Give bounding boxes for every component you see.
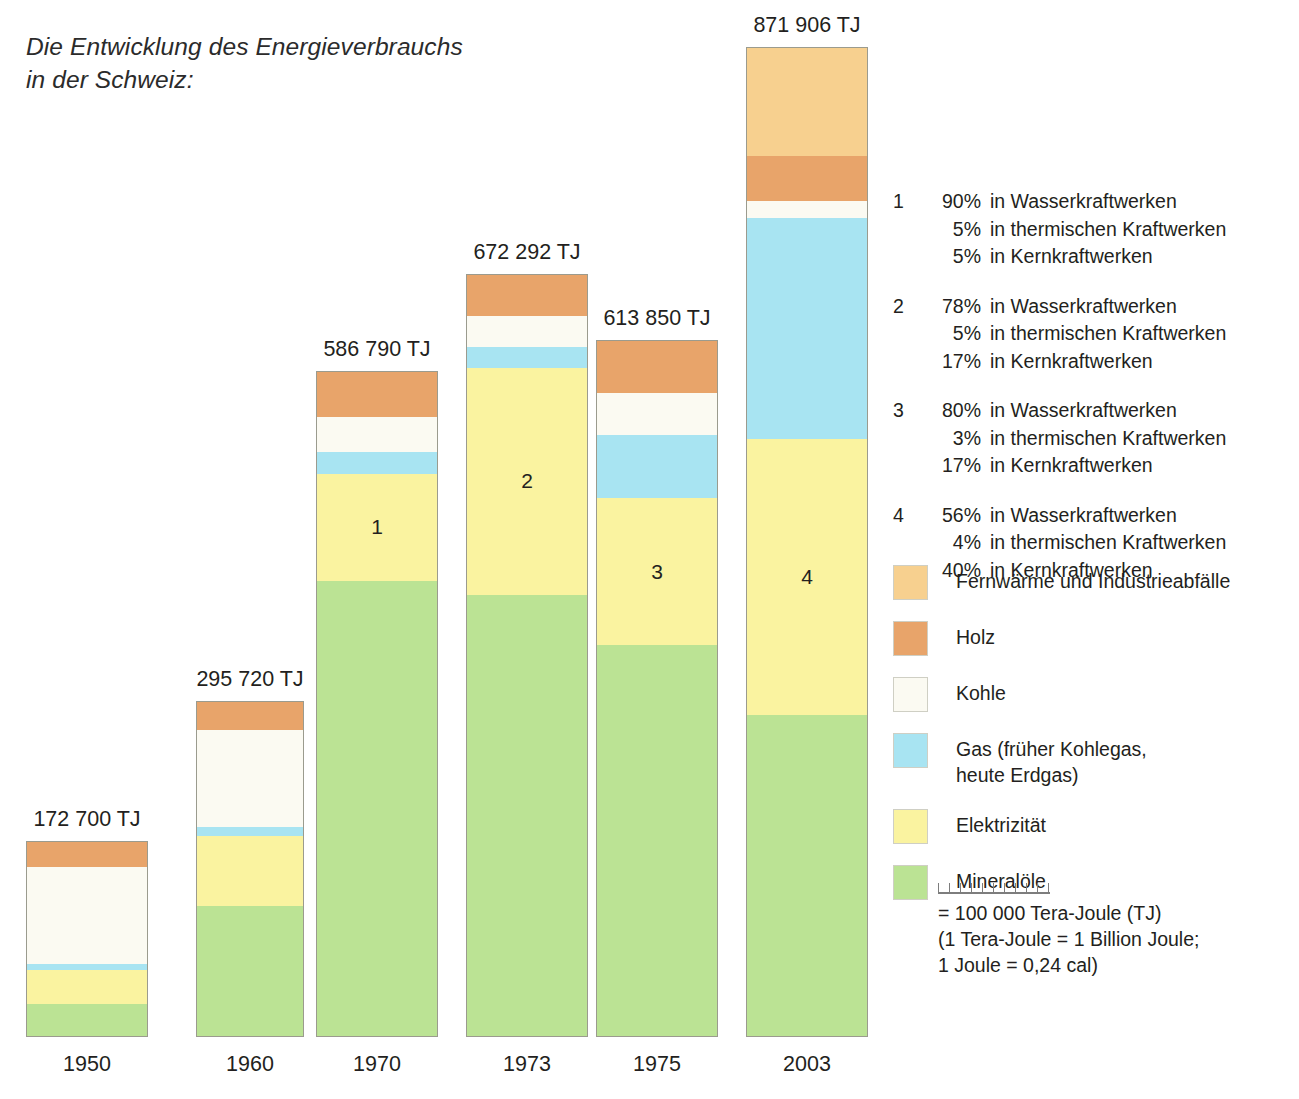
scale-reference: = 100 000 Tera-Joule (TJ) (1 Tera-Joule …: [938, 876, 1298, 978]
bar-group-1950: 172 700 TJ: [26, 0, 148, 1037]
segment-annotation-4: 4: [747, 565, 867, 589]
bar-segment-holz-1950: [27, 842, 147, 867]
footnote-percent: 5%: [935, 320, 990, 348]
legend-label-gas: Gas (früher Kohlegas,heute Erdgas): [956, 733, 1147, 788]
segment-annotation-3: 3: [597, 560, 717, 584]
footnote-text: in Wasserkraftwerken: [990, 188, 1177, 216]
footnote-line: 5%in thermischen Kraftwerken: [935, 216, 1226, 244]
footnote-line: 78%in Wasserkraftwerken: [935, 293, 1226, 321]
stacked-bar-1960[interactable]: [196, 701, 304, 1037]
footnote-line: 17%in Kernkraftwerken: [935, 348, 1226, 376]
legend-label-kohle: Kohle: [956, 677, 1006, 706]
footnote-text: in thermischen Kraftwerken: [990, 529, 1226, 557]
stacked-bar-1970[interactable]: 1: [316, 371, 438, 1037]
scale-tick: [1037, 883, 1038, 892]
legend-label-line-1: Holz: [956, 624, 995, 650]
stacked-bar-1950[interactable]: [26, 841, 148, 1037]
legend-swatch-kohle: [893, 677, 928, 712]
legend-label-line-2: heute Erdgas): [956, 762, 1147, 788]
bar-segment-gas-2003: [747, 218, 867, 439]
footnote-percent: 56%: [935, 502, 990, 530]
footnote-percent: 78%: [935, 293, 990, 321]
footnote-percent: 80%: [935, 397, 990, 425]
bar-group-1960: 295 720 TJ: [196, 0, 304, 1037]
bar-segment-holz-1960: [197, 702, 303, 730]
legend-label-line-1: Elektrizität: [956, 812, 1046, 838]
bar-segment-elektrizitaet-1970: 1: [317, 474, 437, 582]
scale-tick: [993, 883, 994, 892]
footnote-3: 380%in Wasserkraftwerken3%in thermischen…: [893, 397, 1293, 480]
bar-segment-fernwaerme-2003: [747, 48, 867, 156]
footnote-text: in Kernkraftwerken: [990, 452, 1153, 480]
footnote-line: 4%in thermischen Kraftwerken: [935, 529, 1226, 557]
scale-bar-icon: [938, 876, 1050, 894]
x-axis-label-1960: 1960: [226, 1052, 274, 1077]
bar-group-1975: 613 850 TJ3: [596, 0, 718, 1037]
bar-segment-gas-1950: [27, 964, 147, 971]
scale-tick: [1026, 883, 1027, 892]
bar-segment-kohle-1973: [467, 316, 587, 346]
legend-swatch-fernwaerme: [893, 565, 928, 600]
footnote-line: 90%in Wasserkraftwerken: [935, 188, 1226, 216]
bar-segment-gas-1960: [197, 827, 303, 836]
stacked-bar-plot: 1950172 700 TJ1960295 720 TJ1970586 790 …: [0, 0, 900, 1099]
legend-label-fernwaerme: Fernwärme und Industrieabfälle: [956, 565, 1230, 594]
legend-swatch-gas: [893, 733, 928, 768]
bar-segment-holz-1975: [597, 341, 717, 393]
footnote-line: 5%in thermischen Kraftwerken: [935, 320, 1226, 348]
footnote-lines-2: 78%in Wasserkraftwerken5%in thermischen …: [935, 293, 1226, 376]
bar-segment-kohle-1950: [27, 867, 147, 964]
bar-segment-elektrizitaet-1950: [27, 970, 147, 1004]
segment-annotation-2: 2: [467, 469, 587, 493]
legend-label-line-1: Gas (früher Kohlegas,: [956, 736, 1147, 762]
legend-swatch-holz: [893, 621, 928, 656]
scale-tick: [960, 883, 961, 892]
chart-canvas: Die Entwicklung des Energieverbrauchs in…: [0, 0, 1299, 1099]
bar-segment-mineraloele-1975: [597, 645, 717, 1036]
legend-item-holz[interactable]: Holz: [893, 621, 1293, 656]
footnote-text: in Wasserkraftwerken: [990, 397, 1177, 425]
bar-segment-kohle-1960: [197, 730, 303, 827]
footnote-text: in Wasserkraftwerken: [990, 502, 1177, 530]
bar-segment-holz-2003: [747, 156, 867, 201]
footnote-percent: 17%: [935, 452, 990, 480]
bar-total-label-1975: 613 850 TJ: [603, 306, 710, 331]
scale-tick: [938, 883, 939, 892]
footnote-line: 5%in Kernkraftwerken: [935, 243, 1226, 271]
legend-label-holz: Holz: [956, 621, 995, 650]
scale-caption-line-1: = 100 000 Tera-Joule (TJ): [938, 900, 1298, 926]
bar-total-label-1973: 672 292 TJ: [473, 240, 580, 265]
footnote-percent: 5%: [935, 216, 990, 244]
legend-item-elektrizitaet[interactable]: Elektrizität: [893, 809, 1293, 844]
footnote-index-3: 3: [893, 397, 935, 480]
segment-annotation-1: 1: [317, 515, 437, 539]
bar-segment-mineraloele-1973: [467, 595, 587, 1036]
footnote-2: 278%in Wasserkraftwerken5%in thermischen…: [893, 293, 1293, 376]
stacked-bar-1973[interactable]: 2: [466, 274, 588, 1037]
bar-segment-holz-1973: [467, 275, 587, 316]
footnote-lines-1: 90%in Wasserkraftwerken5%in thermischen …: [935, 188, 1226, 271]
legend-item-kohle[interactable]: Kohle: [893, 677, 1293, 712]
legend-label-line-1: Kohle: [956, 680, 1006, 706]
bar-segment-elektrizitaet-1960: [197, 836, 303, 906]
bar-total-label-1950: 172 700 TJ: [33, 807, 140, 832]
bar-segment-gas-1975: [597, 435, 717, 498]
footnote-text: in thermischen Kraftwerken: [990, 320, 1226, 348]
legend-item-gas[interactable]: Gas (früher Kohlegas,heute Erdgas): [893, 733, 1293, 788]
bar-total-label-1960: 295 720 TJ: [196, 667, 303, 692]
stacked-bar-2003[interactable]: 4: [746, 47, 868, 1037]
footnote-text: in thermischen Kraftwerken: [990, 425, 1226, 453]
bar-segment-kohle-1975: [597, 393, 717, 435]
bar-segment-mineraloele-1970: [317, 581, 437, 1036]
bar-segment-gas-1970: [317, 452, 437, 473]
bar-segment-elektrizitaet-2003: 4: [747, 439, 867, 715]
x-axis-label-2003: 2003: [783, 1052, 831, 1077]
x-axis-label-1975: 1975: [633, 1052, 681, 1077]
stacked-bar-1975[interactable]: 3: [596, 340, 718, 1037]
footnote-text: in Kernkraftwerken: [990, 243, 1153, 271]
scale-tick: [1004, 883, 1005, 892]
bar-segment-kohle-2003: [747, 201, 867, 218]
scale-tick: [1015, 883, 1016, 892]
bar-segment-elektrizitaet-1973: 2: [467, 368, 587, 595]
legend-item-fernwaerme[interactable]: Fernwärme und Industrieabfälle: [893, 565, 1293, 600]
